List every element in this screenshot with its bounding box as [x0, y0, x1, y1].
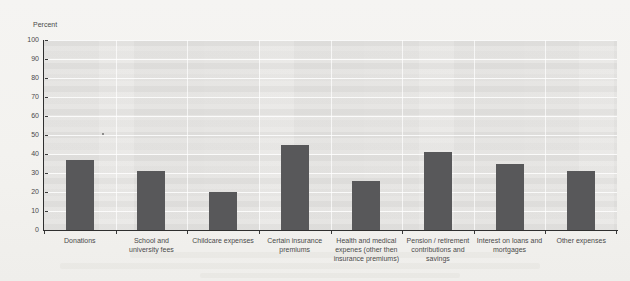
- category-label-4: Health and medical expenes (other then i…: [327, 236, 405, 263]
- y-axis-tick: [45, 211, 48, 212]
- gridline-vertical: [474, 40, 475, 230]
- y-tick-label-70: 70: [17, 93, 39, 100]
- scan-bleedthrough-band: [60, 263, 540, 269]
- y-tick-label-20: 20: [17, 188, 39, 195]
- y-tick-label-30: 30: [17, 169, 39, 176]
- scan-bleedthrough-band: [200, 273, 460, 278]
- gridline-vertical: [331, 40, 332, 230]
- x-axis-tick: [545, 231, 546, 234]
- y-axis: [43, 40, 44, 231]
- gridline-vertical: [187, 40, 188, 230]
- y-tick-label-40: 40: [17, 150, 39, 157]
- bar-3: [281, 145, 309, 231]
- y-axis-tick: [45, 97, 48, 98]
- category-label-0: Donations: [41, 236, 119, 245]
- x-axis-tick: [474, 231, 475, 234]
- x-axis-tick: [331, 231, 332, 234]
- category-label-5: Pension / retirement contributions and s…: [399, 236, 477, 263]
- x-axis-tick: [44, 231, 45, 234]
- y-axis-tick: [45, 192, 48, 193]
- y-axis-tick: [45, 154, 48, 155]
- y-tick-label-50: 50: [17, 131, 39, 138]
- scan-bleedthrough-band: [130, 252, 510, 258]
- y-tick-label-80: 80: [17, 74, 39, 81]
- bar-5: [424, 152, 452, 230]
- x-axis-tick: [616, 231, 617, 234]
- x-axis-tick: [116, 231, 117, 234]
- gridline-vertical: [259, 40, 260, 230]
- bar-1: [137, 171, 165, 230]
- y-tick-label-90: 90: [17, 55, 39, 62]
- bar-7: [567, 171, 595, 230]
- y-tick-label-10: 10: [17, 207, 39, 214]
- gridline-vertical: [402, 40, 403, 230]
- y-axis-tick: [45, 173, 48, 174]
- scanned-document-page: Percent 0102030405060708090100DonationsS…: [0, 0, 630, 281]
- x-axis-tick: [402, 231, 403, 234]
- gridline-vertical: [116, 40, 117, 230]
- scan-speck: [102, 133, 104, 135]
- y-axis-tick: [45, 59, 48, 60]
- x-axis-tick: [259, 231, 260, 234]
- category-label-7: Other expenses: [542, 236, 620, 245]
- bar-2: [209, 192, 237, 230]
- y-axis-tick: [45, 40, 48, 41]
- y-axis-tick: [45, 78, 48, 79]
- y-tick-label-100: 100: [17, 36, 39, 43]
- y-axis-tick: [45, 135, 48, 136]
- category-label-2: Childcare expenses: [184, 236, 262, 245]
- bar-6: [496, 164, 524, 231]
- y-tick-label-0: 0: [17, 226, 39, 233]
- gridline-vertical: [545, 40, 546, 230]
- bar-4: [352, 181, 380, 230]
- x-axis-tick: [187, 231, 188, 234]
- y-tick-label-60: 60: [17, 112, 39, 119]
- bar-0: [66, 160, 94, 230]
- y-axis-unit-label: Percent: [33, 21, 57, 28]
- y-axis-tick: [45, 116, 48, 117]
